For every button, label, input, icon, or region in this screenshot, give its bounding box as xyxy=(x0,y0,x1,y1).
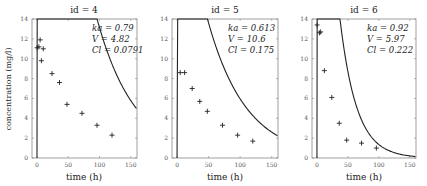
x-tick-label: 100 xyxy=(373,161,385,168)
y-tick-label: 2 xyxy=(304,134,308,141)
y-tick-label: 6 xyxy=(304,94,308,101)
x-axis-label: time (h) xyxy=(207,172,243,182)
panel-id-6: id = 6 time (h) ka = 0.92 V = 5.97 Cl = … xyxy=(300,5,416,182)
observation-marker xyxy=(65,102,70,107)
x-tick-label: 0 xyxy=(315,161,319,168)
y-tick-label: 2 xyxy=(164,134,168,141)
y-axis-label: concentration (mg/l) xyxy=(4,47,13,130)
observation-marker xyxy=(39,58,44,63)
observation-marker xyxy=(220,123,225,128)
observation-marker xyxy=(315,22,320,27)
observation-marker xyxy=(329,95,334,100)
y-tick-label: 0 xyxy=(164,154,168,161)
x-axis-label: time (h) xyxy=(346,172,382,182)
param-cl: Cl = 0.222 xyxy=(367,45,413,55)
x-tick-label: 150 xyxy=(125,161,137,168)
y-tick-label: 12 xyxy=(300,35,308,42)
x-tick-label: 0 xyxy=(175,161,179,168)
observation-marker xyxy=(38,37,43,42)
y-tick-label: 12 xyxy=(20,35,28,42)
y-tick-label: 10 xyxy=(20,55,28,62)
y-tick-label: 0 xyxy=(24,154,28,161)
observation-marker xyxy=(50,71,55,76)
pk-chart-figure: id = 4 concentration (mg/l) time (h) ka … xyxy=(0,0,427,186)
x-tick-label: 50 xyxy=(205,161,213,168)
observation-marker xyxy=(190,86,195,91)
observation-marker xyxy=(374,146,379,151)
y-tick-label: 6 xyxy=(164,94,168,101)
y-tick-label: 0 xyxy=(304,154,308,161)
x-axis-label: time (h) xyxy=(66,172,102,182)
x-tick-label: 100 xyxy=(234,161,246,168)
x-tick-label: 50 xyxy=(64,161,72,168)
observation-marker xyxy=(344,138,349,143)
y-tick-label: 4 xyxy=(164,114,168,121)
param-v: V = 5.97 xyxy=(367,34,405,44)
observation-marker xyxy=(337,121,342,126)
panel-id-4: id = 4 concentration (mg/l) time (h) ka … xyxy=(4,5,144,182)
observation-marker xyxy=(182,70,187,75)
x-tick-label: 0 xyxy=(35,161,39,168)
observation-marker xyxy=(57,80,62,85)
y-tick-label: 8 xyxy=(304,75,308,82)
param-v: V = 10.6 xyxy=(228,34,266,44)
panel-id-5: id = 5 time (h) ka = 0.613 V = 10.6 Cl =… xyxy=(160,5,278,182)
y-tick-label: 6 xyxy=(24,94,28,101)
x-tick-label: 100 xyxy=(94,161,106,168)
y-tick-label: 14 xyxy=(300,15,308,22)
param-cl: Cl = 0.0791 xyxy=(92,45,144,55)
observation-marker xyxy=(197,99,202,104)
x-tick-label: 150 xyxy=(266,161,278,168)
param-ka: ka = 0.613 xyxy=(228,23,275,33)
observation-marker xyxy=(110,133,115,138)
observation-marker xyxy=(95,123,100,128)
y-tick-label: 8 xyxy=(164,75,168,82)
y-tick-label: 10 xyxy=(300,55,308,62)
observation-marker xyxy=(80,111,85,116)
panel-title: id = 6 xyxy=(350,5,378,15)
param-ka: ka = 0.92 xyxy=(367,23,409,33)
y-tick-label: 14 xyxy=(20,15,28,22)
y-tick-label: 4 xyxy=(24,114,28,121)
param-v: V = 4.82 xyxy=(92,34,130,44)
x-tick-label: 150 xyxy=(404,161,416,168)
y-tick-label: 8 xyxy=(24,75,28,82)
observation-marker xyxy=(205,109,210,114)
observation-marker xyxy=(322,68,327,73)
observation-marker xyxy=(250,139,255,144)
observation-marker xyxy=(359,141,364,146)
observation-marker xyxy=(318,29,323,34)
x-tick-label: 50 xyxy=(344,161,352,168)
panel-title: id = 5 xyxy=(211,5,239,15)
param-cl: Cl = 0.175 xyxy=(228,45,274,55)
panel-title: id = 4 xyxy=(70,5,98,15)
y-tick-label: 12 xyxy=(160,35,168,42)
observation-marker xyxy=(235,133,240,138)
y-tick-label: 4 xyxy=(304,114,308,121)
y-tick-label: 14 xyxy=(160,15,168,22)
observation-marker xyxy=(178,70,183,75)
y-tick-label: 2 xyxy=(24,134,28,141)
y-tick-label: 10 xyxy=(160,55,168,62)
observation-marker xyxy=(41,46,46,51)
